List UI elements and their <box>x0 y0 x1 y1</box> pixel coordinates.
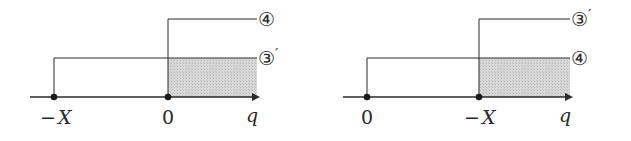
axis-label-q: q <box>559 104 571 126</box>
left-panel: −X 0 q ④ ③′ <box>30 8 279 128</box>
label-minus-x: −X <box>40 106 73 128</box>
label-zero: 0 <box>361 106 373 128</box>
shaded-region <box>168 58 257 97</box>
axis-label-q: q <box>246 104 258 126</box>
point-minus-x <box>51 94 58 101</box>
label-zero: 0 <box>162 106 174 128</box>
point-zero <box>165 94 172 101</box>
shaded-region <box>479 58 570 97</box>
label-line-3-prime: ③′ <box>258 45 279 69</box>
label-line-4: ④ <box>571 47 588 69</box>
point-zero <box>364 94 371 101</box>
label-line-3-prime: ③′ <box>571 6 592 30</box>
diagram: −X 0 q ④ ③′ 0 −X q ③′ ④ <box>0 0 631 141</box>
label-line-4: ④ <box>258 8 275 30</box>
label-minus-x: −X <box>464 106 497 128</box>
right-panel: 0 −X q ③′ ④ <box>343 6 592 128</box>
point-minus-x <box>476 94 483 101</box>
